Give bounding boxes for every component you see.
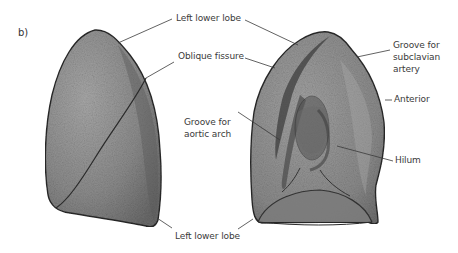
label-oblique-fissure: Oblique fissure	[178, 51, 244, 62]
panel-label: b)	[18, 27, 28, 38]
label-groove-subclavian-line2: subclavian	[393, 52, 440, 63]
left-lung-lateral-view	[45, 30, 161, 227]
left-lung-medial-view	[251, 32, 385, 225]
label-left-lower-lobe-top: Left lower lobe	[176, 13, 241, 24]
label-hilum: Hilum	[395, 155, 421, 166]
label-groove-aortic-line2: aortic arch	[184, 129, 231, 140]
label-anterior: Anterior	[394, 94, 430, 105]
label-groove-subclavian-line1: Groove for	[393, 40, 440, 51]
label-left-lower-lobe-bottom: Left lower lobe	[175, 231, 240, 242]
label-groove-aortic-line1: Groove for	[184, 117, 231, 128]
label-groove-subclavian-line3: artery	[393, 64, 420, 75]
